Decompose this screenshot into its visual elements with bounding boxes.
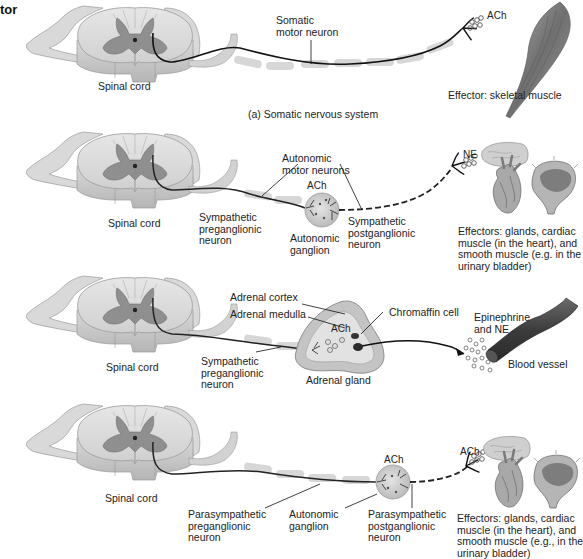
- parasympathetic-autonomic-ganglion-label: Autonomic ganglion: [289, 509, 339, 532]
- parasympathetic-effector-ach-label: ACh: [460, 446, 479, 457]
- adrenal-medulla-label: Adrenal medulla: [230, 308, 306, 320]
- somatic-ach-label: ACh: [487, 10, 506, 21]
- adrenal-cortex-label: Adrenal cortex: [230, 291, 298, 303]
- parasympathetic-effectors-label: Effectors: glands, cardiac muscle (in th…: [457, 513, 583, 559]
- chromaffin-cell-upper: [351, 333, 359, 339]
- effector-organs-parasympathetic: [484, 436, 580, 508]
- sympathetic-ne-label: NE: [463, 149, 477, 160]
- chromaffin-cell-label: Chromaffin cell: [389, 306, 459, 318]
- sympathetic-effectors-label: Effectors: glands, cardiac muscle (in th…: [458, 226, 581, 272]
- adrenal-ach-label: ACh: [331, 323, 350, 334]
- effector-organs-sympathetic: [482, 142, 578, 214]
- sympathetic-postganglionic-axon: [339, 168, 452, 210]
- sympathetic-autonomic-ganglion-label: Autonomic ganglion: [290, 233, 340, 256]
- sympathetic-preganglionic-label: Sympathetic preganglionic neuron: [199, 212, 261, 247]
- parasympathetic-ganglion-ach-label: ACh: [384, 454, 403, 465]
- blood-vessel-label: Blood vessel: [508, 358, 568, 370]
- adrenal-preganglionic-label: Sympathetic preganglionic neuron: [201, 356, 263, 391]
- parasympathetic-spinal-cord-label: Spinal cord: [105, 492, 158, 504]
- somatic-spinal-cord-label: Spinal cord: [98, 80, 151, 92]
- epinephrine-ne-label: Epinephrine and NE: [474, 312, 530, 335]
- autonomic-ganglion-parasympathetic: [376, 465, 410, 499]
- parasympathetic-postganglionic-axon: [410, 464, 470, 482]
- chromaffin-cell-lower: [353, 343, 363, 351]
- sympathetic-spinal-cord-label: Spinal cord: [108, 217, 161, 229]
- adrenal-gland: [295, 301, 384, 373]
- sympathetic-postganglionic-label: Sympathetic postganglionic neuron: [348, 216, 415, 251]
- parasympathetic-postganglionic-label: Parasympathetic postganglionic neuron: [368, 509, 446, 544]
- adrenal-gland-label: Adrenal gland: [306, 374, 371, 386]
- somatic-motor-neuron-label: Somatic motor neuron: [276, 14, 338, 38]
- sympathetic-ganglion-ach-label: ACh: [307, 180, 326, 191]
- parasympathetic-preganglionic-label: Parasympathetic preganglionic neuron: [188, 509, 266, 544]
- autonomic-motor-neurons-label: Autonomic motor neurons: [282, 152, 350, 176]
- skeletal-muscle-effector-label: Effector: skeletal muscle: [448, 89, 562, 101]
- panel-a-caption: (a) Somatic nervous system: [248, 108, 378, 120]
- somatic-spinal-cord: [26, 6, 237, 82]
- adrenal-spinal-cord-label: Spinal cord: [106, 361, 159, 373]
